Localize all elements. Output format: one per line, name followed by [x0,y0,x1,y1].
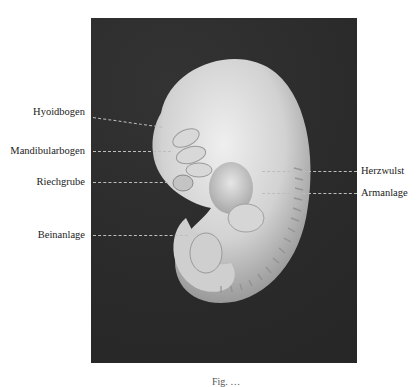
leader-line-herzwulst [262,171,357,172]
label-riechgrube: Riechgrube [37,176,85,188]
label-hyoidbogen: Hyoidbogen [33,106,85,118]
label-mandibularbogen: Mandibularbogen [10,145,85,157]
embryo-photograph [91,18,357,363]
label-herzwulst: Herzwulst [361,165,404,177]
leader-line-beinanlage [93,235,188,236]
label-armanlage: Armanlage [361,187,408,199]
label-beinanlage: Beinanlage [38,229,85,241]
leader-line-riechgrube [93,182,168,183]
leader-line-armanlage [262,193,357,194]
figure-caption: Fig. … [212,376,240,387]
embryo-illustration [91,18,357,363]
leader-line-mandibularbogen [93,151,171,152]
